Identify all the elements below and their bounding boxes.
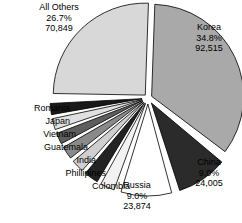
slice-label-russia-value: 23,874 [106,201,168,212]
pie-chart-figure: Romania Japan Vietnam Guatemala India Ph… [0,0,242,223]
slice-label-japan-name: Japan [10,116,70,127]
slice-label-romania-name: Romania [2,103,70,114]
slice-label-japan: Japan [10,116,70,127]
slice-label-china-name: China [180,157,238,168]
slice-label-guatemala: Guatemala [6,142,88,153]
slice-label-china-value: 24,005 [180,178,238,189]
slice-label-all-others-value: 70,849 [16,23,102,34]
slice-label-phillipines-name: Phillipines [28,168,106,179]
slice-label-russia-percent: 9.0% [106,191,168,202]
slice-label-korea: Korea 34.8% 92,515 [178,22,240,54]
slice-label-russia: Russia 9.0% 23,874 [106,180,168,212]
slice-label-all-others-name: All Others [16,2,102,13]
slice-label-vietnam: Vietnam [12,129,76,140]
slice-label-india: India [40,155,96,166]
slice-label-guatemala-name: Guatemala [6,142,88,153]
slice-label-korea-name: Korea [178,22,240,33]
slice-label-china: China 9.0% 24,005 [180,157,238,189]
slice-label-korea-percent: 34.8% [178,33,240,44]
slice-label-china-percent: 9.0% [180,168,238,179]
slice-label-vietnam-name: Vietnam [12,129,76,140]
slice-label-all-others: All Others 26.7% 70,849 [16,2,102,34]
slice-label-india-name: India [40,155,96,166]
slice-label-phillipines: Phillipines [28,168,106,179]
slice-label-all-others-percent: 26.7% [16,13,102,24]
slice-label-romania: Romania [2,103,70,114]
slice-label-russia-name: Russia [106,180,168,191]
slice-label-korea-value: 92,515 [178,43,240,54]
